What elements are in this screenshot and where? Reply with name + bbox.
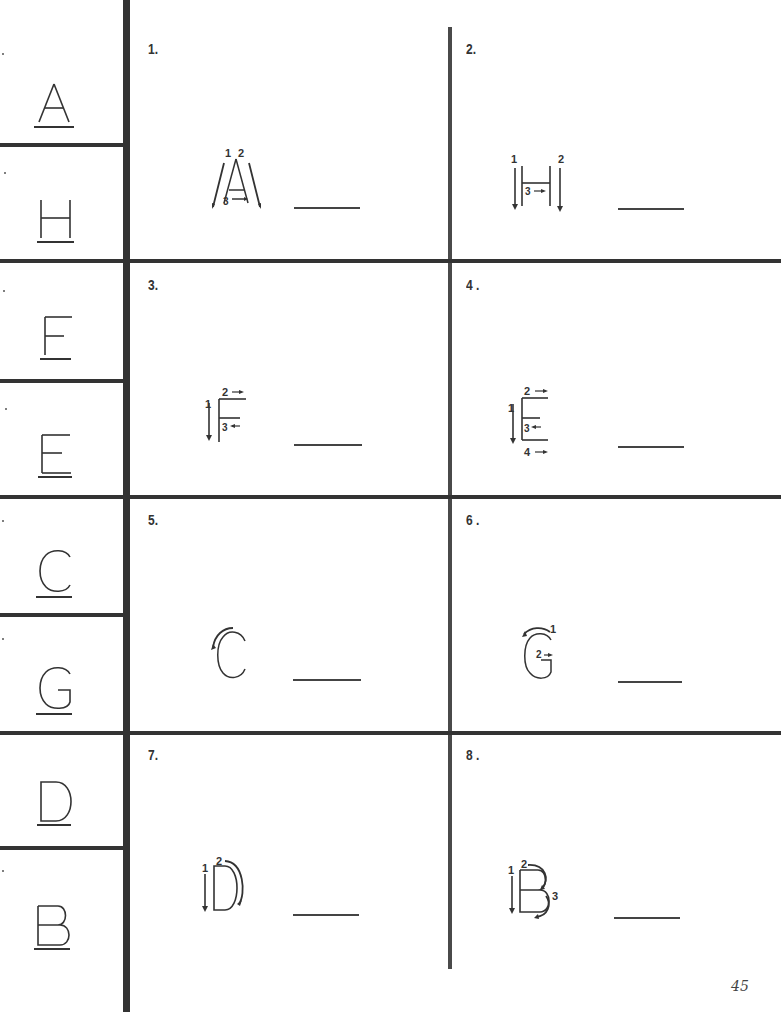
stroke-label-1: 1: [508, 402, 514, 414]
exercise-2-letter-h-strokes: 1 2 3: [508, 148, 568, 216]
margin-dot: [2, 870, 4, 872]
answer-blank[interactable]: [294, 444, 362, 446]
row-divider: [0, 259, 781, 263]
stroke-label-3: 3: [552, 890, 558, 902]
stroke-label-4: 4: [524, 446, 531, 458]
letter-h-glyph: [30, 196, 80, 248]
answer-blank[interactable]: [614, 917, 680, 919]
stroke-label-1: 1: [225, 147, 231, 159]
left-divider-line: [123, 0, 130, 1012]
reference-letter-d: D: [30, 779, 80, 831]
row-divider: [0, 495, 781, 499]
exercise-5-letter-c-strokes: [205, 625, 255, 685]
margin-dot: [5, 408, 7, 410]
letter-d-glyph: [30, 779, 80, 831]
stroke-label-2: 2: [238, 147, 244, 159]
exercise-number: 1.: [148, 40, 158, 57]
answer-blank[interactable]: [293, 679, 361, 681]
stroke-label-1: 1: [550, 623, 556, 635]
stroke-label-2: 2: [216, 855, 222, 867]
exercise-number: 2.: [466, 40, 476, 57]
answer-blank[interactable]: [618, 208, 684, 210]
stroke-label-1: 1: [508, 864, 514, 876]
margin-dot: [2, 520, 4, 522]
margin-dot: [3, 290, 5, 292]
stroke-label-3: 3: [222, 422, 228, 433]
letter-b-glyph: [30, 903, 80, 955]
stroke-label-1: 1: [202, 862, 208, 874]
ref-divider: [0, 143, 126, 147]
reference-letter-a: A: [30, 80, 80, 132]
answer-blank[interactable]: [618, 681, 682, 683]
answer-blank[interactable]: [618, 446, 684, 448]
exercise-number: 6 .: [466, 511, 479, 528]
exercise-number: 3.: [148, 276, 158, 293]
exercise-1-letter-a-strokes: 1 2 3: [210, 145, 270, 215]
stroke-label-3: 3: [525, 186, 531, 197]
letter-g-glyph: [30, 664, 80, 716]
answer-blank[interactable]: [294, 207, 360, 209]
reference-letter-g: G: [30, 664, 80, 716]
letter-e-glyph: [30, 431, 80, 483]
ref-divider: [0, 613, 126, 617]
letter-g-stroke-diagram: 1 2: [515, 620, 565, 685]
stroke-label-3: 3: [524, 423, 530, 434]
row-divider: [0, 731, 781, 735]
exercise-6-letter-g-strokes: 1 2: [515, 620, 565, 685]
reference-letter-b: B: [30, 903, 80, 955]
exercise-number: 8 .: [466, 746, 479, 763]
letter-c-glyph: [30, 547, 80, 599]
exercise-number: 4 .: [466, 276, 479, 293]
margin-dot: [2, 638, 4, 640]
reference-letter-h: H: [30, 196, 80, 248]
answer-blank[interactable]: [293, 914, 359, 916]
margin-dot: [4, 172, 6, 174]
exercise-8-letter-b-strokes: 1 2 3: [508, 858, 568, 923]
reference-letter-c: C: [30, 547, 80, 599]
reference-letter-e: E: [30, 431, 80, 483]
page-number: 45: [731, 978, 749, 994]
stroke-label-2: 2: [558, 153, 564, 165]
margin-dot: [2, 53, 4, 55]
ref-divider: [0, 846, 126, 850]
letter-b-stroke-diagram: 1 2 3: [508, 858, 568, 923]
stroke-label-2: 2: [524, 385, 530, 397]
reference-letter-f: F: [30, 313, 80, 365]
exercise-number: 7.: [148, 746, 158, 763]
exercise-number: 5.: [148, 511, 158, 528]
exercise-4-letter-e-strokes: 2 1 3 4: [505, 382, 565, 462]
letter-f-stroke-diagram: 2 1 3: [200, 383, 260, 448]
stroke-label-1: 1: [205, 398, 211, 410]
letter-e-stroke-diagram: 2 1 3 4: [505, 382, 565, 462]
stroke-label-2: 2: [222, 386, 228, 398]
stroke-label-2: 2: [521, 858, 527, 870]
letter-f-glyph: [30, 313, 80, 365]
stroke-label-1: 1: [511, 153, 517, 165]
letter-d-stroke-diagram: 1 2: [200, 856, 255, 916]
letter-a-stroke-diagram: 1 2 3: [210, 145, 270, 215]
ref-divider: [0, 379, 126, 383]
letter-c-stroke-diagram: [205, 625, 255, 685]
exercise-3-letter-f-strokes: 2 1 3: [200, 383, 260, 448]
stroke-label-2: 2: [536, 649, 542, 660]
stroke-label-3: 3: [223, 196, 229, 207]
exercise-7-letter-d-strokes: 1 2: [200, 856, 255, 916]
letter-h-stroke-diagram: 1 2 3: [508, 148, 568, 216]
letter-a-glyph: [30, 80, 80, 132]
